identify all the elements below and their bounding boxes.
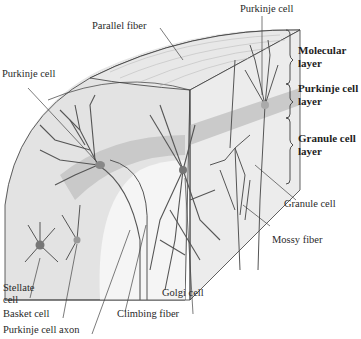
molecular-layer-line1: Molecular	[298, 44, 346, 57]
label-climbing-fiber: Climbing fiber	[117, 308, 179, 320]
purkinje-cell-body	[95, 161, 105, 169]
label-parallel-fiber: Parallel fiber	[92, 20, 147, 32]
stellate-cell-body	[36, 241, 45, 250]
golgi-cell-body	[179, 166, 187, 174]
cerebellum-diagram: Parallel fiber Purkinje cell Purkinje ce…	[0, 0, 361, 339]
purkinje-cell-top-body	[261, 101, 269, 109]
granule-layer-line2: layer	[298, 145, 356, 158]
label-stellate-cell: Stellate cell	[3, 282, 35, 306]
purkinje-layer-line1: Purkinje cell	[298, 82, 358, 95]
label-basket-cell: Basket cell	[3, 308, 49, 320]
basket-cell-body	[74, 237, 81, 244]
label-purkinje-cell-top: Purkinje cell	[240, 3, 293, 15]
label-golgi-cell: Golgi cell	[162, 287, 204, 299]
label-molecular-layer: Molecular layer	[298, 44, 346, 69]
molecular-layer-line2: layer	[298, 57, 346, 70]
label-purkinje-cell-axon: Purkinje cell axon	[3, 324, 79, 336]
label-granule-cell-layer: Granule cell layer	[298, 132, 356, 157]
stellate-line2: cell	[3, 294, 35, 306]
purkinje-layer-line2: layer	[298, 95, 358, 108]
granule-layer-line1: Granule cell	[298, 132, 356, 145]
stellate-line1: Stellate	[3, 282, 35, 294]
label-purkinje-cell-layer: Purkinje cell layer	[298, 82, 358, 107]
label-purkinje-cell-left: Purkinje cell	[2, 68, 55, 80]
label-granule-cell: Granule cell	[284, 198, 336, 210]
label-mossy-fiber: Mossy fiber	[272, 234, 322, 246]
